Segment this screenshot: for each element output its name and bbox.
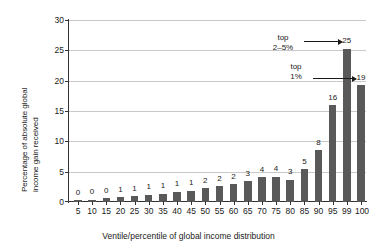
x-tick-mark (135, 201, 136, 205)
gridline-30 (69, 20, 366, 21)
x-tick-mark (191, 201, 192, 205)
bar (244, 181, 252, 202)
x-tick-mark (276, 201, 277, 205)
bar (272, 177, 280, 203)
x-tick-label: 100 (353, 207, 371, 216)
bar (315, 150, 323, 202)
x-tick-mark (347, 201, 348, 205)
bar (258, 177, 266, 202)
y-axis-tick-labels: 30 25 20 15 10 5 0 (40, 20, 64, 202)
y-tick-label: 5 (42, 168, 64, 177)
bar (216, 186, 224, 202)
x-tick-mark (262, 201, 263, 205)
bar (357, 85, 365, 202)
x-tick-mark (319, 201, 320, 205)
y-tick-label: 0 (42, 198, 64, 207)
y-tick-mark (65, 81, 69, 82)
y-tick-mark (65, 201, 69, 202)
annotation-top-2-5-line-2: 2–5% (264, 43, 302, 53)
x-tick-mark (120, 201, 121, 205)
y-tick-mark (65, 111, 69, 112)
x-tick-mark (290, 201, 291, 205)
bar (343, 49, 351, 203)
x-tick-mark (92, 201, 93, 205)
x-tick-mark (234, 201, 235, 205)
y-tick-label: 30 (42, 16, 64, 25)
plot-area: 0 0 0 1 1 1 1 1 1 2 2 2 3 4 4 3 5 8 16 2… (69, 20, 366, 202)
annotation-top-2-5-line-1: top (268, 33, 298, 43)
y-tick-label: 20 (42, 77, 64, 86)
x-tick-mark (149, 201, 150, 205)
gridline-20 (69, 81, 366, 82)
y-tick-label: 25 (42, 46, 64, 55)
y-tick-mark (65, 20, 69, 21)
bar-chart-figure: Percentage of absolute global income gai… (0, 0, 377, 252)
y-tick-label: 15 (42, 107, 64, 116)
y-tick-mark (65, 141, 69, 142)
annotation-top-1-line-1: top (281, 62, 311, 72)
gridline-25 (69, 50, 366, 51)
bar (202, 188, 210, 202)
bar (301, 169, 309, 202)
x-tick-mark (106, 201, 107, 205)
x-tick-mark (177, 201, 178, 205)
y-axis-title: Percentage of absolute global income gai… (0, 0, 40, 205)
y-axis-title-line-1: Percentage of absolute global (20, 88, 31, 192)
annotation-top-1-arrow (313, 78, 356, 79)
bar (329, 105, 337, 202)
x-tick-mark (361, 201, 362, 205)
x-tick-mark (333, 201, 334, 205)
gridline-15 (69, 111, 366, 112)
annotation-top-2-5-arrow (304, 41, 342, 42)
bar-value-label: 3 (282, 168, 298, 176)
y-tick-mark (65, 50, 69, 51)
bar (286, 180, 294, 202)
bar-value-label: 5 (296, 158, 312, 166)
x-tick-mark (163, 201, 164, 205)
x-tick-mark (205, 201, 206, 205)
x-tick-mark (304, 201, 305, 205)
y-tick-mark (65, 172, 69, 173)
bar-value-label: 16 (325, 94, 341, 102)
x-tick-mark (248, 201, 249, 205)
annotation-top-1-line-2: 1% (281, 72, 311, 82)
bar-value-label: 8 (311, 139, 327, 147)
x-tick-mark (78, 201, 79, 205)
x-axis-title: Ventile/percentile of global income dist… (0, 231, 377, 241)
y-tick-label: 10 (42, 137, 64, 146)
x-tick-mark (220, 201, 221, 205)
bar (230, 184, 238, 202)
